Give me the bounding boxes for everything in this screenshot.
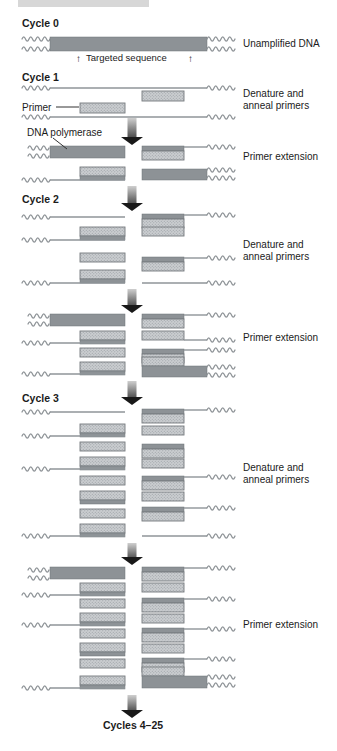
- dna-flank-wavy: [207, 506, 235, 510]
- target-dna-bar: [142, 628, 184, 633]
- target-dna-bar: [50, 37, 207, 51]
- target-dna-bar: [142, 658, 184, 663]
- new-dna-bar: [80, 613, 125, 622]
- cycle0-label: Cycle 0: [22, 17, 59, 29]
- new-dna-bar: [142, 227, 184, 236]
- cycle1-label: Cycle 1: [22, 71, 59, 83]
- new-dna-bar: [142, 91, 184, 101]
- new-dna-bar: [142, 492, 184, 501]
- new-dna-bar: [80, 348, 125, 357]
- dna-flank-wavy: [28, 146, 49, 150]
- primer-extension-label-3: Primer extension: [243, 619, 318, 630]
- dna-flank-wavy: [207, 365, 235, 369]
- target-dna-bar: [142, 349, 184, 354]
- new-dna-bar: [80, 476, 125, 485]
- dna-flank-wavy: [22, 467, 50, 471]
- new-dna-bar: [80, 599, 125, 608]
- new-dna-bar: [80, 457, 125, 466]
- dna-flank-wavy: [207, 37, 235, 41]
- target-dna-bar: [80, 652, 125, 656]
- new-dna-bar: [142, 319, 184, 328]
- new-dna-bar: [80, 362, 125, 371]
- dna-flank-wavy: [207, 373, 235, 377]
- target-dna-bar: [50, 146, 125, 158]
- primer-extension-label-1: Primer extension: [243, 151, 318, 162]
- dna-flank-wavy: [207, 313, 235, 317]
- dna-flank-wavy: [28, 154, 49, 158]
- unamplified-dna-label: Unamplified DNA: [243, 38, 320, 49]
- new-dna-bar: [142, 357, 184, 366]
- new-dna-bar: [80, 442, 125, 451]
- dna-flank-wavy: [28, 568, 49, 572]
- target-dna-bar: [142, 476, 184, 481]
- new-dna-bar: [80, 643, 125, 652]
- dna-flank-wavy: [207, 683, 235, 687]
- target-dna-bar: [80, 500, 125, 504]
- cycle2-label: Cycle 2: [22, 193, 59, 205]
- denature-anneal-label-1a: Denature and: [243, 88, 304, 99]
- dna-flank-wavy: [22, 410, 50, 414]
- dna-flank-wavy: [28, 576, 49, 580]
- dna-flank-wavy: [207, 176, 235, 180]
- dna-flank-wavy: [207, 675, 235, 679]
- dna-flank-wavy: [22, 37, 50, 41]
- dna-flank-wavy: [22, 215, 50, 219]
- new-dna-bar: [80, 509, 125, 518]
- cycle-arrow-4: [121, 381, 143, 405]
- target-dna-bar: [142, 507, 184, 512]
- new-dna-bar: [80, 659, 125, 668]
- cycle3-label: Cycle 3: [22, 392, 59, 404]
- cycle-arrow-6: [121, 695, 143, 718]
- dna-flank-wavy: [207, 168, 235, 172]
- dna-flank-wavy: [22, 47, 50, 51]
- dna-flank-wavy: [207, 566, 235, 570]
- target-dna-bar: [142, 146, 184, 151]
- dna-flank-wavy: [207, 627, 235, 631]
- new-dna-bar: [142, 644, 184, 653]
- dna-flank-wavy: [207, 338, 235, 342]
- dna-polymerase-label: DNA polymerase: [27, 127, 102, 138]
- target-dna-bar: [50, 567, 125, 579]
- dna-flank-wavy: [207, 256, 235, 260]
- dna-flank-wavy: [207, 408, 235, 412]
- dna-flank-wavy: [207, 145, 235, 149]
- dna-flank-wavy: [22, 281, 50, 285]
- new-dna-bar: [80, 676, 125, 685]
- new-dna-bar: [142, 414, 184, 423]
- dna-flank-wavy: [22, 115, 50, 119]
- dna-flank-wavy: [22, 623, 50, 627]
- new-dna-bar: [142, 633, 184, 642]
- new-dna-bar: [142, 151, 184, 160]
- new-dna-bar: [142, 459, 184, 468]
- target-dna-bar: [142, 409, 184, 414]
- dna-flank-wavy: [207, 657, 235, 661]
- new-dna-bar: [142, 426, 184, 435]
- scan-artifact: [18, 0, 149, 7]
- targeted-sequence-label: Targeted sequence: [86, 52, 167, 63]
- target-dna-bar: [142, 314, 184, 319]
- dna-flank-wavy: [207, 534, 235, 538]
- new-dna-bar: [80, 270, 125, 279]
- dna-flank-wavy: [22, 86, 50, 90]
- dna-flank-wavy: [22, 341, 50, 345]
- new-dna-bar: [80, 103, 125, 113]
- target-dna-bar: [142, 366, 207, 377]
- new-dna-bar: [80, 331, 125, 340]
- new-dna-bar: [80, 629, 125, 638]
- new-dna-bar: [142, 603, 184, 612]
- cycle-arrow-1: [121, 118, 143, 145]
- dna-flank-wavy: [28, 314, 49, 318]
- new-dna-bar: [80, 583, 125, 592]
- new-dna-bar: [80, 491, 125, 500]
- dna-flank-wavy: [22, 686, 50, 690]
- denature-anneal-label-1b: anneal primers: [243, 100, 309, 111]
- cycle-arrow-3: [121, 289, 143, 313]
- targeted-seq-arrow-right: ↑: [188, 53, 193, 64]
- new-dna-bar: [80, 524, 125, 533]
- figure-container: Cycle 0Unamplified DNA↑Targeted sequence…: [0, 0, 337, 751]
- primer-extension-label-2: Primer extension: [243, 332, 318, 343]
- new-dna-bar: [80, 167, 125, 176]
- target-dna-bar: [50, 314, 125, 326]
- denature-anneal-label-2b: anneal primers: [243, 251, 309, 262]
- target-dna-bar: [142, 567, 184, 572]
